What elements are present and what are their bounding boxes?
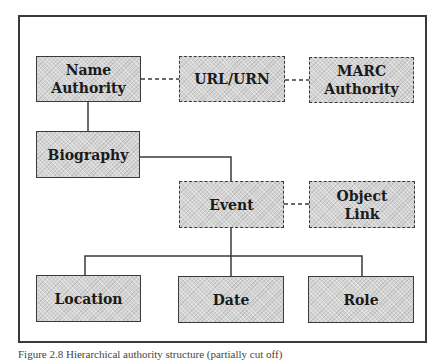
node-label: Event: [209, 196, 253, 214]
node-label: Name: [66, 62, 112, 78]
node-label: Location: [54, 290, 122, 308]
node-object-link: ObjectLink: [309, 181, 415, 228]
node-date: Date: [178, 276, 284, 323]
node-location: Location: [36, 275, 141, 322]
figure-caption: Figure 2.8 Hierarchical authority struct…: [18, 348, 282, 360]
node-label: Authority: [51, 80, 125, 96]
node-url-urn: URL/URN: [179, 56, 285, 102]
node-label: Authority: [324, 81, 398, 97]
node-marc-authority: MARCAuthority: [309, 57, 414, 103]
node-label: Date: [213, 291, 250, 309]
node-label: Biography: [48, 146, 129, 164]
node-name-authority: NameAuthority: [36, 56, 141, 102]
node-label: Link: [344, 206, 379, 222]
node-label: Object: [337, 188, 388, 204]
node-event: Event: [179, 181, 284, 228]
node-role: Role: [308, 276, 414, 323]
node-label: Role: [343, 291, 378, 309]
node-label: MARC: [337, 63, 386, 79]
node-biography: Biography: [36, 131, 140, 178]
node-label: URL/URN: [194, 70, 269, 88]
